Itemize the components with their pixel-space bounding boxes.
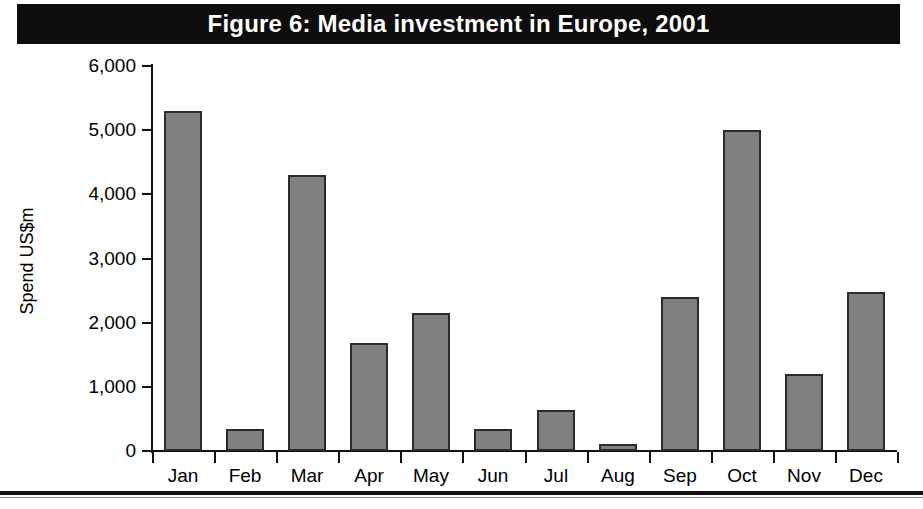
- x-axis-tick: [649, 452, 651, 463]
- bar-aug: [599, 444, 637, 451]
- x-axis-tick: [152, 452, 154, 463]
- x-axis-tick: [338, 452, 340, 463]
- bars-layer: [0, 0, 923, 451]
- bottom-divider-hairline: [0, 497, 923, 498]
- x-axis-tick-label: Apr: [338, 466, 400, 486]
- bar-may: [412, 313, 450, 451]
- x-axis-tick: [773, 452, 775, 463]
- x-axis-tick-label: Jun: [462, 466, 524, 486]
- x-axis-tick: [525, 452, 527, 463]
- x-axis-tick: [711, 452, 713, 463]
- bar-jan: [164, 111, 202, 451]
- bottom-divider: [0, 491, 923, 495]
- bar-jun: [474, 429, 512, 451]
- bar-nov: [785, 374, 823, 451]
- x-axis-tick-label: Sep: [649, 466, 711, 486]
- x-axis-tick-label: Jul: [525, 466, 587, 486]
- bar-oct: [723, 130, 761, 451]
- x-axis-tick: [400, 452, 402, 463]
- x-axis-tick-label: Oct: [711, 466, 773, 486]
- bar-feb: [226, 429, 264, 451]
- figure-container: Figure 6: Media investment in Europe, 20…: [0, 0, 923, 509]
- x-axis-tick-label: Mar: [276, 466, 338, 486]
- x-axis-tick-label: Aug: [587, 466, 649, 486]
- bar-jul: [537, 410, 575, 451]
- x-axis-tick-label: Nov: [773, 466, 835, 486]
- bar-sep: [661, 297, 699, 451]
- bar-apr: [350, 343, 388, 451]
- x-axis-tick: [276, 452, 278, 463]
- x-axis-tick: [835, 452, 837, 463]
- x-axis-tick: [897, 452, 899, 463]
- x-axis-tick-label: Feb: [214, 466, 276, 486]
- x-axis-tick: [462, 452, 464, 463]
- bar-mar: [288, 175, 326, 451]
- x-axis-tick: [587, 452, 589, 463]
- x-axis-tick-label: May: [400, 466, 462, 486]
- x-axis-tick: [214, 452, 216, 463]
- bar-dec: [847, 292, 885, 451]
- x-axis-tick-label: Dec: [835, 466, 897, 486]
- x-axis-tick-label: Jan: [152, 466, 214, 486]
